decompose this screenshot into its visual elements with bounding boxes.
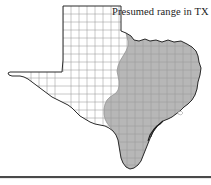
coastal-inlet-detail	[178, 111, 183, 115]
texas-map-svg	[0, 0, 211, 176]
texas-map	[0, 0, 211, 176]
figure-container: Presumed range in TX	[0, 0, 211, 185]
presumed-range-label: Presumed range in TX	[112, 6, 209, 18]
divider-highlight	[0, 178, 211, 179]
